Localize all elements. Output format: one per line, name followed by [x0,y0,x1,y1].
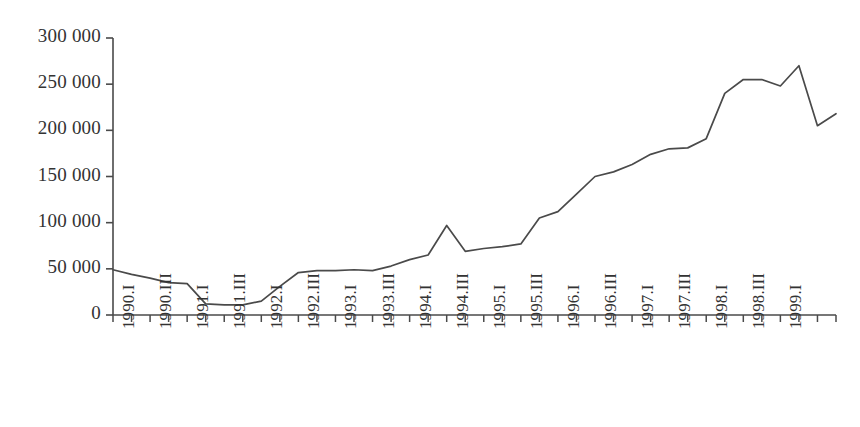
x-axis-tick-label: 1996.III [601,273,621,329]
x-axis-tick-label: 1991.I [193,284,213,329]
x-axis-tick-label: 1990.I [119,284,139,329]
x-axis-tick-label: 1995.III [527,273,547,329]
x-axis-tick-label: 1997.I [638,284,658,329]
x-axis-tick-label: 1994.III [453,273,473,329]
y-axis-tick-label: 200 000 [38,117,101,139]
x-axis-tick-label: 1998.III [749,273,769,329]
y-axis-tick-label: 150 000 [38,164,101,186]
x-axis-tick-label: 1993.III [379,273,399,329]
x-axis-tick-label: 1991.III [230,273,250,329]
x-axis-tick-label: 1996.I [564,284,584,329]
x-axis-tick-label: 1994.I [416,284,436,329]
x-axis-tick-label: 1993.I [341,284,361,329]
chart-plot-area [0,0,860,427]
y-axis-tick-label: 300 000 [38,25,101,47]
y-axis-tick-label: 250 000 [38,71,101,93]
y-axis-tick-label: 50 000 [48,256,101,278]
x-axis-tick-label: 1999.I [786,284,806,329]
x-axis-tick-label: 1990.III [156,273,176,329]
x-axis-tick-label: 1992.I [267,284,287,329]
x-axis-tick-label: 1997.III [675,273,695,329]
y-axis-ticks [106,38,113,315]
x-axis-tick-label: 1992.III [304,273,324,329]
data-series-line [113,66,836,305]
chart-axes [113,38,836,315]
x-axis-tick-label: 1995.I [490,284,510,329]
y-axis-tick-label: 100 000 [38,210,101,232]
x-axis-tick-label: 1998.I [712,284,732,329]
line-chart: 050 000100 000150 000200 000250 000300 0… [0,0,860,427]
y-axis-tick-label: 0 [91,302,101,324]
